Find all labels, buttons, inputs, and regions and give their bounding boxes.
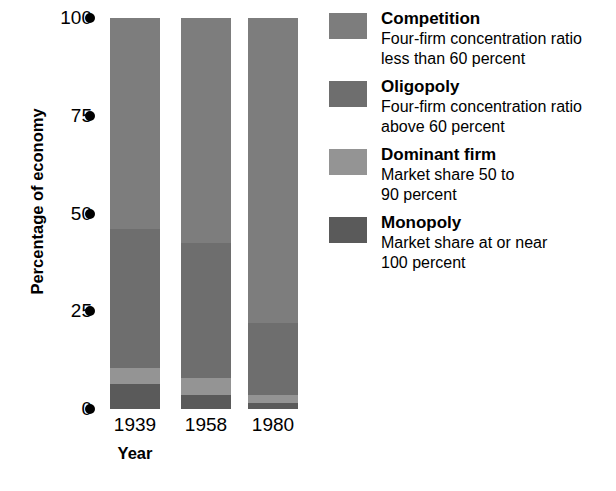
x-axis-label-1939: 1939 xyxy=(100,414,170,436)
bar-segment-1939-oligopoly xyxy=(110,229,160,368)
bar-segment-1939-monopoly xyxy=(110,384,160,409)
y-tick-label-100: 100 xyxy=(30,8,92,28)
bar-1958 xyxy=(181,18,231,409)
legend-description-line-2: 100 percent xyxy=(381,253,612,273)
y-tick-marker-0 xyxy=(85,404,95,414)
legend-entry-dominant-firm: Dominant firmMarket share 50 to90 percen… xyxy=(329,144,612,205)
legend-text-block: OligopolyFour-firm concentration ratioab… xyxy=(381,76,612,137)
x-axis-title: Year xyxy=(100,444,170,463)
legend-title: Competition xyxy=(381,8,612,29)
bar-segment-1958-oligopoly xyxy=(181,243,231,378)
legend-description-line-1: Market share 50 to xyxy=(381,165,612,185)
y-tick-label-0: 0 xyxy=(30,399,92,419)
legend-title: Monopoly xyxy=(381,212,612,233)
legend-description-line-2: 90 percent xyxy=(381,185,612,205)
x-axis-label-1980: 1980 xyxy=(238,414,308,436)
x-axis-label-1958: 1958 xyxy=(171,414,241,436)
legend-entry-monopoly: MonopolyMarket share at or near100 perce… xyxy=(329,212,612,273)
legend-description-line-2: above 60 percent xyxy=(381,117,612,137)
legend-text-block: Dominant firmMarket share 50 to90 percen… xyxy=(381,144,612,205)
y-tick-marker-100 xyxy=(85,13,95,23)
bar-segment-1980-dominant-firm xyxy=(248,395,298,403)
bar-segment-1980-competition xyxy=(248,18,298,323)
legend-description-line-1: Four-firm concentration ratio xyxy=(381,29,612,49)
bar-segment-1939-dominant-firm xyxy=(110,368,160,384)
legend-swatch-monopoly xyxy=(329,217,367,243)
y-tick-label-50: 50 xyxy=(30,204,92,224)
y-tick-label-75: 75 xyxy=(30,106,92,126)
bar-1980 xyxy=(248,18,298,409)
legend-entry-oligopoly: OligopolyFour-firm concentration ratioab… xyxy=(329,76,612,137)
bar-segment-1958-dominant-firm xyxy=(181,378,231,396)
legend-description-line-1: Four-firm concentration ratio xyxy=(381,97,612,117)
y-tick-label-25: 25 xyxy=(30,301,92,321)
bar-segment-1980-monopoly xyxy=(248,403,298,409)
legend-title: Dominant firm xyxy=(381,144,612,165)
legend-swatch-dominant-firm xyxy=(329,149,367,175)
bar-segment-1980-oligopoly xyxy=(248,323,298,395)
y-tick-marker-25 xyxy=(85,306,95,316)
bar-segment-1939-competition xyxy=(110,18,160,229)
legend-description-line-1: Market share at or near xyxy=(381,233,612,253)
legend-text-block: MonopolyMarket share at or near100 perce… xyxy=(381,212,612,273)
bar-segment-1958-competition xyxy=(181,18,231,243)
legend-title: Oligopoly xyxy=(381,76,612,97)
y-tick-marker-75 xyxy=(85,111,95,121)
y-tick-marker-50 xyxy=(85,209,95,219)
bar-segment-1958-monopoly xyxy=(181,395,231,409)
legend-swatch-competition xyxy=(329,13,367,39)
legend-swatch-oligopoly xyxy=(329,81,367,107)
legend-description-line-2: less than 60 percent xyxy=(381,49,612,69)
legend-text-block: CompetitionFour-firm concentration ratio… xyxy=(381,8,612,69)
stacked-bar-chart: Percentage of economy 1007550250 1939195… xyxy=(0,0,616,491)
bar-1939 xyxy=(110,18,160,409)
chart-legend: CompetitionFour-firm concentration ratio… xyxy=(329,8,612,280)
legend-entry-competition: CompetitionFour-firm concentration ratio… xyxy=(329,8,612,69)
